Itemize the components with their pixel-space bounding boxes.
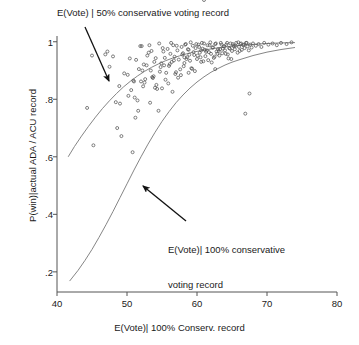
- scatter-point: [209, 41, 212, 44]
- scatter-point: [179, 74, 182, 77]
- scatter-point: [118, 85, 121, 88]
- scatter-point: [119, 102, 122, 105]
- scatter-point: [163, 64, 166, 67]
- scatter-point: [177, 58, 180, 61]
- scatter-point: [188, 53, 191, 56]
- scatter-point: [196, 54, 199, 57]
- chart-figure: E(Vote) | 50% conservative voting record…: [0, 0, 359, 345]
- scatter-point: [140, 80, 143, 83]
- scatter-point: [206, 44, 209, 47]
- scatter-point: [106, 50, 109, 53]
- plot-canvas: [0, 0, 359, 345]
- scatter-point: [112, 55, 115, 58]
- scatter-point: [248, 92, 251, 95]
- scatter-point: [127, 94, 130, 97]
- scatter-point: [187, 71, 190, 74]
- scatter-point: [260, 45, 263, 48]
- scatter-point: [137, 109, 140, 112]
- scatter-point: [175, 44, 178, 47]
- scatter-point: [158, 42, 161, 45]
- scatter-point: [275, 44, 278, 47]
- scatter-point: [180, 45, 183, 48]
- curve-E(Vote) | 50% cons: [68, 43, 295, 157]
- scatter-point: [203, 0, 206, 2]
- scatter-point: [204, 55, 207, 58]
- scatter-point: [144, 78, 147, 81]
- scatter-point: [153, 60, 156, 63]
- scatter-point: [162, 50, 165, 53]
- scatter-point: [189, 41, 192, 44]
- scatter-point: [221, 52, 224, 55]
- scatter-point: [244, 112, 247, 115]
- annotation-arrows: [85, 27, 186, 221]
- scatter-point: [196, 58, 199, 61]
- scatter-point: [149, 69, 152, 72]
- scatter-point: [161, 87, 164, 90]
- scatter-point: [136, 99, 139, 102]
- scatter-point: [142, 85, 145, 88]
- scatter-point: [150, 49, 153, 52]
- scatter-point: [163, 56, 166, 59]
- scatter-point: [91, 54, 94, 57]
- scatter-point: [247, 49, 250, 52]
- scatter-point: [177, 76, 180, 79]
- scatter-point: [114, 101, 117, 104]
- scatter-point: [254, 44, 257, 47]
- scatter-point: [189, 59, 192, 62]
- scatter-point: [171, 90, 174, 93]
- scatter-point: [183, 62, 186, 65]
- scatter-point: [131, 151, 134, 154]
- arrow-curve-label-50: [85, 27, 109, 81]
- scatter-point: [86, 106, 89, 109]
- scatter-point: [135, 58, 138, 61]
- scatter-point: [126, 73, 129, 76]
- scatter-point: [155, 83, 158, 86]
- scatter-point: [194, 47, 197, 50]
- scatter-point: [176, 49, 179, 52]
- curve-E(Vote)| 100% cons: [70, 48, 295, 282]
- scatter-point: [104, 53, 107, 56]
- scatter-point: [161, 47, 164, 50]
- scatter-point: [182, 65, 185, 68]
- scatter-point: [250, 46, 253, 49]
- scatter-point: [137, 68, 140, 71]
- scatter-point: [159, 66, 162, 69]
- scatter-point: [92, 144, 95, 147]
- arrow-curve-label-100: [143, 186, 186, 221]
- axis-lines: [53, 36, 337, 296]
- scatter-point: [167, 82, 170, 85]
- scatter-points: [86, 0, 293, 154]
- scatter-point: [246, 45, 249, 48]
- scatter-point: [179, 68, 182, 71]
- scatter-point: [133, 96, 136, 99]
- scatter-point: [141, 69, 144, 72]
- scatter-point: [193, 70, 196, 73]
- scatter-point: [170, 41, 173, 44]
- scatter-point: [116, 127, 119, 130]
- scatter-point: [148, 44, 151, 47]
- scatter-point: [191, 44, 194, 47]
- scatter-point: [134, 116, 137, 119]
- scatter-point: [158, 70, 161, 73]
- scatter-point: [210, 61, 213, 64]
- scatter-point: [130, 89, 133, 92]
- scatter-point: [157, 109, 160, 112]
- scatter-point: [123, 72, 126, 75]
- scatter-point: [164, 78, 167, 81]
- scatter-point: [128, 57, 131, 60]
- scatter-point: [154, 57, 157, 60]
- scatter-point: [199, 56, 202, 59]
- scatter-point: [149, 101, 152, 104]
- scatter-point: [143, 81, 146, 84]
- scatter-point: [145, 64, 148, 67]
- scatter-point: [108, 65, 111, 68]
- scatter-point: [166, 47, 169, 50]
- scatter-point: [165, 71, 168, 74]
- fitted-curves: [68, 43, 295, 281]
- scatter-point: [120, 135, 123, 138]
- scatter-point: [169, 52, 172, 55]
- scatter-point: [207, 59, 210, 62]
